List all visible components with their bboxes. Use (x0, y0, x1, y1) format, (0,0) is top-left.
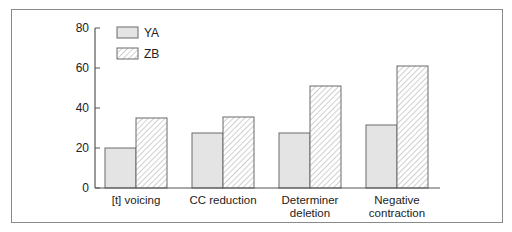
legend-label-zb: ZB (144, 47, 159, 61)
bar-ya-0 (105, 148, 136, 188)
legend-label-ya: YA (144, 26, 159, 40)
y-axis: 020406080 (76, 21, 100, 195)
bar-chart: 020406080 [t] voicingCC reductionDetermi… (0, 0, 512, 232)
x-category-label: Negative (374, 194, 419, 206)
legend-swatch-zb (117, 48, 138, 59)
x-category-label: CC reduction (189, 194, 256, 206)
y-tick-label: 20 (76, 141, 90, 155)
bar-zb-1 (223, 117, 254, 188)
x-category-label: Determiner (282, 194, 339, 206)
x-category-label: contraction (369, 207, 425, 219)
bars (105, 66, 428, 188)
bar-ya-2 (279, 133, 310, 188)
y-tick-label: 60 (76, 61, 90, 75)
bar-zb-2 (310, 86, 341, 188)
x-axis: [t] voicingCC reductionDeterminerdeletio… (95, 188, 440, 219)
bar-ya-3 (366, 125, 397, 188)
bar-ya-1 (192, 133, 223, 188)
y-tick-label: 80 (76, 21, 90, 35)
legend-swatch-ya (117, 27, 138, 38)
y-tick-label: 40 (76, 101, 90, 115)
y-tick-label: 0 (82, 181, 89, 195)
bar-zb-0 (136, 118, 167, 188)
legend: YAZB (117, 26, 159, 61)
bar-zb-3 (397, 66, 428, 188)
x-category-label: [t] voicing (112, 194, 161, 206)
x-category-label: deletion (290, 207, 330, 219)
